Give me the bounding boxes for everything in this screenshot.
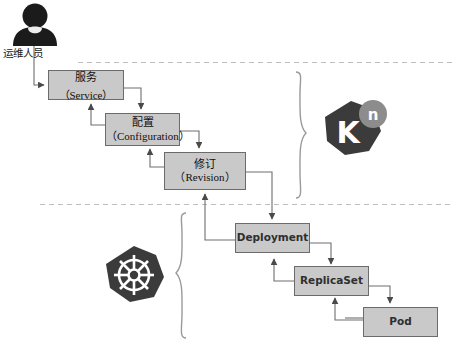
connector-replicaset-to-pod [369,286,390,303]
node-deployment[interactable]: Deployment [235,223,310,253]
connector-service-to-configuration [124,88,141,109]
node-revision-cn: 修订 [167,159,243,171]
person-icon [9,2,61,50]
node-service[interactable]: 服务（Service） [48,70,124,100]
connector-deployment-to-replicaset [310,243,331,264]
connector-configuration-to-service [91,104,105,125]
node-replicaset[interactable]: ReplicaSet [294,266,369,296]
node-configuration-cn: 配置 [106,117,179,129]
actor-label: 运维人员 [3,45,43,60]
node-service-cn: 服务 [75,71,97,84]
kubernetes-brace [176,213,186,338]
connector-revision-to-deployment [246,172,272,219]
node-configuration-en: （Configuration） [106,130,179,142]
knative-brace [296,72,306,198]
diagram-canvas: 运维人员 服务（Service） 配置 （Configuration） 修订 （… [0,0,454,347]
node-configuration[interactable]: 配置 （Configuration） [105,113,180,146]
kubernetes-logo-icon [100,243,168,315]
node-service-en: （Service） [59,89,114,101]
connector-revision-to-configuration [150,149,164,167]
node-pod-label: Pod [364,316,437,328]
knative-logo-icon: K n [315,95,393,177]
node-revision-en: （Revision） [167,171,243,183]
knative-logo-superscript: n [368,106,379,124]
node-revision[interactable]: 修订 （Revision） [164,152,246,190]
connector-pod-to-replicaset [335,298,363,320]
node-replicaset-label: ReplicaSet [295,275,368,287]
node-deployment-label: Deployment [235,232,311,244]
connector-deployment-to-revision [205,194,235,240]
knative-logo-mark: K [336,115,361,150]
node-pod[interactable]: Pod [363,307,438,337]
connector-replicaset-to-deployment [274,259,294,281]
